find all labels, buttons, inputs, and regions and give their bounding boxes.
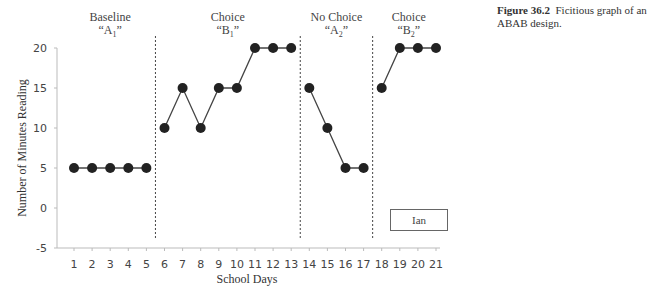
x-tick-label: 3 [107,258,114,271]
abab-line-chart: -505101520123456789101112131415161718192… [0,0,648,290]
data-point [377,83,387,93]
figure-caption: Figure 36.2 Ficitious graph of an ABAB d… [497,4,647,30]
phase-labels: Baseline“A1”Choice“B1”No Choice“A2”Choic… [90,10,426,39]
data-point [123,163,133,173]
data-point [304,83,314,93]
data-point [141,163,151,173]
y-tick-label: 0 [40,202,47,215]
data-point [160,123,170,133]
phase-code: “B1” [217,23,240,39]
data-point [322,123,332,133]
y-tick-label: 15 [33,82,47,95]
phase-name: Choice [211,10,245,24]
axes: -505101520123456789101112131415161718192… [33,42,443,271]
data-point [69,163,79,173]
x-tick-label: 19 [393,258,407,271]
phase-change-lines [155,36,372,240]
legend-box: Ian [390,209,448,231]
legend-label: Ian [412,214,426,226]
x-tick-label: 17 [357,258,371,271]
series-line [382,48,436,88]
x-axis-title: School Days [217,272,278,286]
y-tick-label: 10 [33,122,47,135]
x-tick-label: 8 [197,258,204,271]
y-tick-label: 5 [40,162,47,175]
x-tick-label: 7 [179,258,186,271]
x-tick-label: 2 [89,258,96,271]
x-tick-label: 9 [215,258,222,271]
data-point [87,163,97,173]
y-axis-title: Number of Minutes Reading [15,79,29,217]
x-tick-label: 13 [284,258,298,271]
data-point [341,163,351,173]
data-point [359,163,369,173]
x-tick-label: 15 [320,258,334,271]
x-tick-label: 1 [71,258,78,271]
x-tick-label: 4 [125,258,132,271]
x-tick-label: 5 [143,258,150,271]
x-tick-label: 18 [375,258,389,271]
series-line [309,88,363,168]
data-point [214,83,224,93]
figure-number: Figure 36.2 [497,4,550,16]
y-tick-label: -5 [36,242,47,255]
x-tick-label: 10 [230,258,244,271]
data-point [250,43,260,53]
x-tick-label: 20 [411,258,425,271]
phase-name: Choice [392,10,426,24]
data-point [178,83,188,93]
data-point [232,83,242,93]
data-point [286,43,296,53]
x-tick-label: 14 [302,258,316,271]
x-tick-label: 6 [161,258,168,271]
data-point [431,43,441,53]
data-series [69,43,441,173]
data-point [413,43,423,53]
y-tick-label: 20 [33,42,47,55]
phase-code: “A1” [99,23,122,39]
data-point [196,123,206,133]
x-tick-label: 12 [266,258,280,271]
x-tick-label: 11 [248,258,262,271]
phase-code: “B2” [398,23,421,39]
data-point [268,43,278,53]
phase-code: “A2” [325,23,348,39]
x-tick-label: 16 [339,258,353,271]
data-point [395,43,405,53]
x-tick-label: 21 [429,258,443,271]
phase-name: Baseline [90,10,131,24]
data-point [105,163,115,173]
phase-name: No Choice [311,10,363,24]
